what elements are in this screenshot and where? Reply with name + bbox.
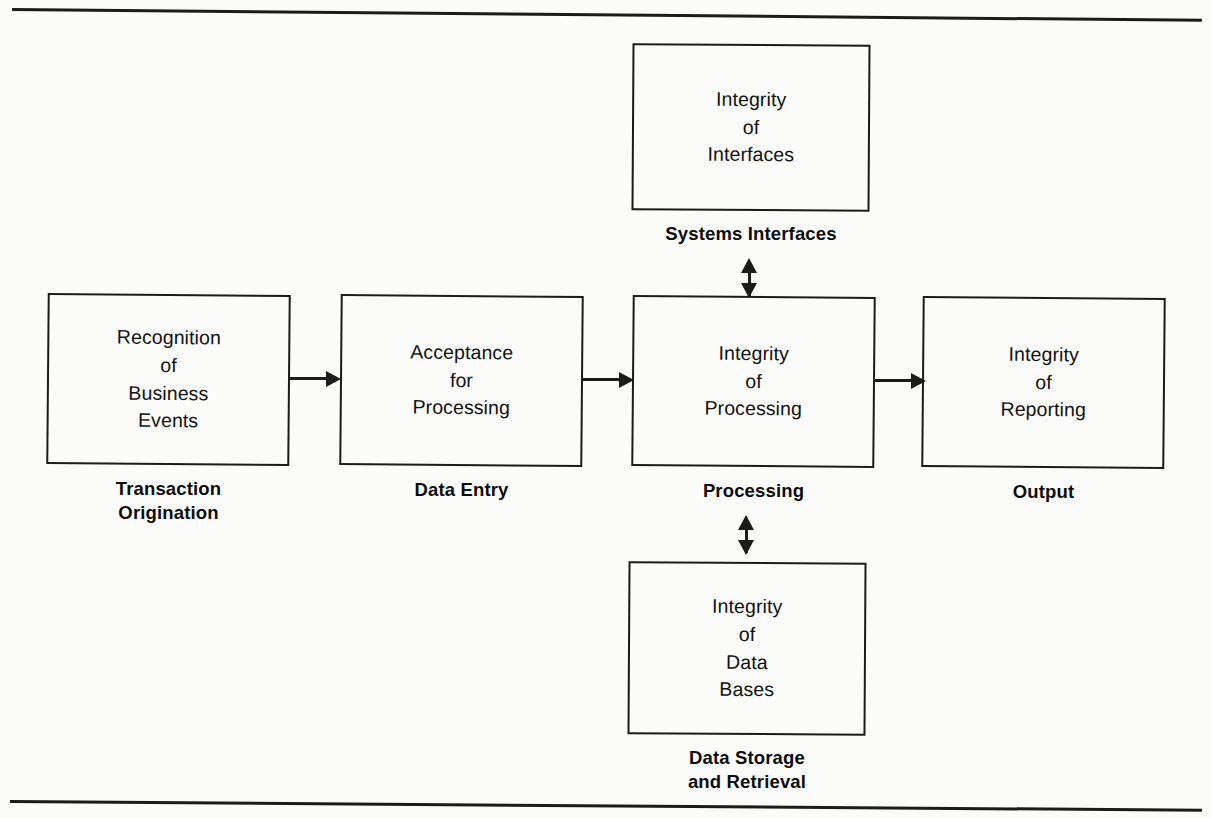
caption-transaction-origination: Transaction Origination bbox=[47, 477, 290, 525]
connector-entry-processing bbox=[583, 378, 621, 381]
node-processing: Integrity of Processing bbox=[631, 295, 875, 468]
node-data-entry: Acceptance for Processing bbox=[339, 294, 583, 467]
connector-origination-entry bbox=[290, 377, 328, 380]
diagram-canvas: Integrity of Interfaces Systems Interfac… bbox=[0, 0, 1211, 818]
node-transaction-origination-body: Recognition of Business Events bbox=[116, 324, 221, 436]
node-transaction-origination: Recognition of Business Events bbox=[46, 293, 290, 466]
node-processing-body: Integrity of Processing bbox=[704, 340, 802, 424]
arrow-storage-to-processing-down bbox=[738, 540, 754, 555]
caption-output: Output bbox=[922, 480, 1165, 504]
node-systems-interfaces: Integrity of Interfaces bbox=[631, 43, 870, 211]
node-data-storage: Integrity of Data Bases bbox=[627, 561, 866, 735]
caption-data-storage: Data Storage and Retrieval bbox=[628, 746, 866, 794]
node-systems-interfaces-body: Integrity of Interfaces bbox=[707, 86, 794, 170]
node-output-body: Integrity of Reporting bbox=[1000, 341, 1086, 425]
node-data-storage-body: Integrity of Data Bases bbox=[712, 593, 783, 704]
caption-processing: Processing bbox=[632, 479, 875, 503]
bottom-rule bbox=[10, 800, 1202, 812]
arrow-origination-to-entry bbox=[326, 371, 341, 387]
top-rule bbox=[12, 8, 1202, 22]
node-output: Integrity of Reporting bbox=[921, 296, 1165, 469]
connector-processing-output bbox=[875, 379, 913, 382]
caption-data-entry: Data Entry bbox=[340, 478, 583, 502]
caption-systems-interfaces: Systems Interfaces bbox=[632, 222, 870, 246]
node-data-entry-body: Acceptance for Processing bbox=[410, 339, 514, 423]
